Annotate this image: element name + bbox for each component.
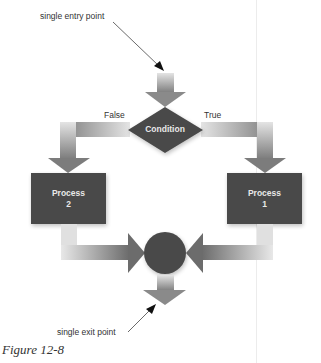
exit-point-label: single exit point — [57, 327, 116, 337]
true-branch-arrow — [201, 122, 286, 173]
process-2-label-line1: Process — [31, 188, 106, 199]
flowchart-canvas — [0, 0, 321, 363]
true-branch-label: True — [204, 110, 221, 120]
exit-pointer-arrow — [128, 304, 156, 332]
merge-junction-circle — [144, 232, 186, 274]
process-1-merge-arrow — [186, 224, 273, 273]
process-1-label-line1: Process — [227, 188, 302, 199]
condition-label: Condition — [130, 124, 200, 135]
entry-arrow — [145, 73, 186, 107]
process-1-label-line2: 1 — [227, 199, 302, 210]
exit-arrow — [143, 275, 186, 305]
false-branch-arrow — [48, 122, 130, 173]
process-1-label: Process 1 — [227, 188, 302, 210]
entry-point-label: single entry point — [40, 11, 104, 21]
process-2-merge-arrow — [61, 224, 145, 273]
figure-caption: Figure 12-8 — [2, 342, 64, 358]
process-2-label: Process 2 — [31, 188, 106, 210]
entry-pointer-arrow — [113, 22, 164, 71]
process-2-label-line2: 2 — [31, 199, 106, 210]
false-branch-label: False — [104, 110, 125, 120]
